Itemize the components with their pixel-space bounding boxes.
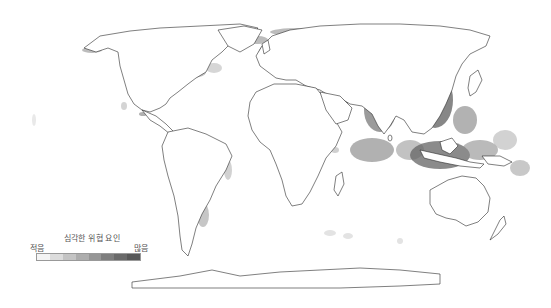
map-legend: 심각한 위협 요인 적음 많음 [30,232,148,264]
land-new-guinea [482,156,512,166]
legend-low-label: 적음 [30,242,44,253]
legend-swatch [127,254,140,260]
land-australia [430,176,490,226]
legend-swatch [76,254,89,260]
land-new-zealand [490,216,506,240]
legend-swatch [63,254,76,260]
land-japan [468,70,482,96]
legend-high-label: 많음 [134,242,148,253]
land-central-america [142,110,174,134]
legend-swatch [37,254,50,260]
land-layer [84,24,512,288]
legend-swatch [89,254,102,260]
legend-swatch [101,254,114,260]
land-sri-lanka [388,135,392,141]
legend-title: 심각한 위협 요인 [64,232,120,243]
legend-color-scale [36,253,141,261]
land-madagascar [334,172,344,196]
legend-swatch [50,254,63,260]
land-antarctica [132,268,440,288]
land-south-america [162,128,232,256]
legend-swatch [114,254,127,260]
